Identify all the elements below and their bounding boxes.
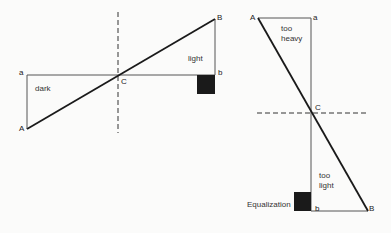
left-label-B: B xyxy=(217,14,222,22)
right-region-too-light-1: too xyxy=(319,171,330,181)
left-label-a: a xyxy=(19,69,23,77)
left-label-b: b xyxy=(218,69,222,77)
right-region-too-heavy-1: too xyxy=(281,24,292,34)
right-label-B: B xyxy=(369,205,374,213)
diagram-canvas xyxy=(0,0,391,233)
left-black-box xyxy=(197,75,215,94)
left-A-B-diagonal xyxy=(27,19,215,129)
left-region-light: light xyxy=(188,54,203,64)
right-A-B-diagonal xyxy=(258,18,368,211)
right-region-too-heavy-2: heavy xyxy=(281,34,302,44)
right-label-a: a xyxy=(313,14,317,22)
equalization-label: Equalization xyxy=(247,200,291,210)
left-region-dark: dark xyxy=(35,84,51,94)
right-label-C: C xyxy=(315,104,321,112)
right-label-A: A xyxy=(250,14,255,22)
right-region-too-light-2: light xyxy=(319,181,334,191)
right-label-b: b xyxy=(315,205,319,213)
right-black-box xyxy=(294,192,311,211)
left-label-C: C xyxy=(121,78,127,86)
right-figure xyxy=(257,18,369,211)
left-figure xyxy=(27,12,215,133)
left-label-A: A xyxy=(19,125,24,133)
